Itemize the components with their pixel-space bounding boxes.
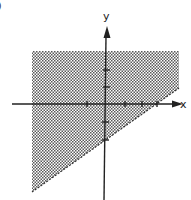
corner-mark: ) <box>0 1 2 11</box>
y-axis-arrow-icon <box>104 26 111 38</box>
inequality-graph: y x ) <box>0 0 191 200</box>
y-axis-label: y <box>103 10 110 23</box>
x-axis-label: x <box>180 98 187 111</box>
